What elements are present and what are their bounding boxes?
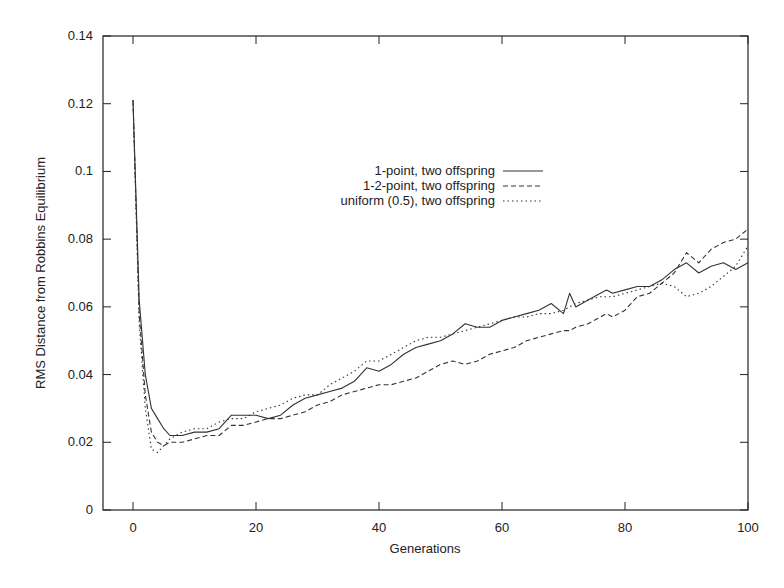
series-line-3 <box>133 100 748 452</box>
y-axis-label: RMS Distance from Robbins Equilibrium <box>33 157 48 389</box>
series-lines <box>133 100 748 452</box>
x-tick-label: 40 <box>372 520 386 535</box>
series-line-2 <box>133 100 748 445</box>
y-tick-label: 0.12 <box>68 96 93 111</box>
x-tick-label: 100 <box>737 520 759 535</box>
plot-frame <box>103 36 748 510</box>
x-axis-label: Generations <box>390 541 461 556</box>
y-axis-ticks: 00.020.040.060.080.10.120.14 <box>68 28 748 517</box>
y-tick-label: 0.02 <box>68 434 93 449</box>
legend-label: 1-2-point, two offspring <box>363 178 495 193</box>
y-tick-label: 0.08 <box>68 231 93 246</box>
y-tick-label: 0.04 <box>68 367 93 382</box>
x-tick-label: 60 <box>495 520 509 535</box>
x-tick-label: 20 <box>249 520 263 535</box>
y-tick-label: 0.06 <box>68 299 93 314</box>
y-tick-label: 0 <box>86 502 93 517</box>
y-tick-label: 0.14 <box>68 28 93 43</box>
legend-label: uniform (0.5), two offspring <box>341 193 495 208</box>
y-tick-label: 0.1 <box>75 163 93 178</box>
series-line-1 <box>133 100 748 435</box>
line-chart: 00.020.040.060.080.10.120.14 02040608010… <box>0 0 784 588</box>
x-axis-ticks: 020406080100 <box>129 36 758 535</box>
x-tick-label: 0 <box>129 520 136 535</box>
legend: 1-point, two offspring1-2-point, two off… <box>341 163 543 208</box>
legend-label: 1-point, two offspring <box>375 163 495 178</box>
x-tick-label: 80 <box>618 520 632 535</box>
